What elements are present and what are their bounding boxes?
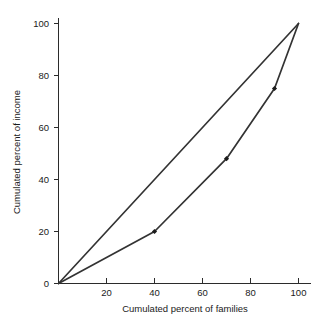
y-tick-label-20: 20: [38, 226, 49, 237]
x-tick-label-80: 80: [245, 287, 256, 298]
y-tick-label-100: 100: [33, 18, 49, 29]
y-tick-label-80: 80: [38, 70, 49, 81]
x-tick-label-40: 40: [149, 287, 160, 298]
y-tick-label-0: 0: [44, 278, 49, 289]
chart-canvas: 0 20 40 60 80 100 20 40 60 80 100 Cumula…: [0, 0, 325, 321]
x-tick-label-20: 20: [101, 287, 112, 298]
y-axis-title: Cumulated percent of income: [11, 90, 22, 214]
y-tick-label-40: 40: [38, 174, 49, 185]
lorenz-curve-figure: 0 20 40 60 80 100 20 40 60 80 100 Cumula…: [0, 0, 325, 321]
x-axis-title: Cumulated percent of families: [122, 303, 248, 314]
x-tick-label-100: 100: [291, 287, 307, 298]
x-tick-label-60: 60: [197, 287, 208, 298]
y-tick-label-60: 60: [38, 122, 49, 133]
